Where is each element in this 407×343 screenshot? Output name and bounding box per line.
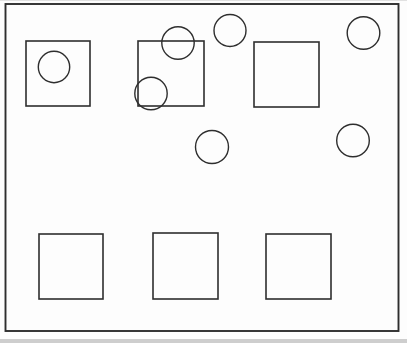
circle-on-top-edge-of-middle-square	[162, 27, 194, 59]
square-bottom-right	[266, 234, 331, 299]
circle-inside-top-left-square	[38, 51, 69, 82]
square-bottom-left	[39, 234, 103, 299]
square-top-middle	[138, 41, 204, 106]
circle-top-right	[347, 17, 380, 50]
square-bottom-middle	[153, 233, 218, 299]
circle-on-bottom-left-corner-of-middle-square	[135, 77, 167, 109]
figure-page	[0, 0, 407, 343]
scan-edge-bottom	[0, 339, 407, 343]
circle-mid-center	[196, 131, 229, 164]
circle-mid-right	[337, 124, 370, 157]
circle-top-center	[214, 15, 246, 47]
square-top-left	[26, 41, 90, 106]
figure-canvas	[0, 0, 407, 343]
outer-frame	[6, 4, 399, 331]
square-top-right	[254, 42, 319, 107]
